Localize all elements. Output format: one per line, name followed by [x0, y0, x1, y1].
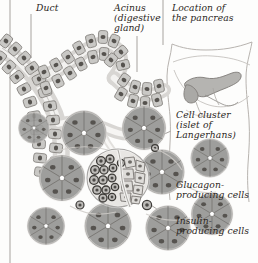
acinus-10 — [19, 113, 50, 144]
pancreas-figure: Duct Acinus (digestive gland) Location o… — [0, 0, 258, 263]
acinus-9 — [28, 208, 65, 245]
label-duct: Duct — [36, 3, 59, 13]
acinus-3 — [40, 156, 85, 201]
acinus-8 — [191, 139, 229, 177]
acinus-5 — [85, 203, 131, 249]
islet-of-langerhans — [87, 149, 149, 207]
acinus-2 — [123, 107, 166, 150]
